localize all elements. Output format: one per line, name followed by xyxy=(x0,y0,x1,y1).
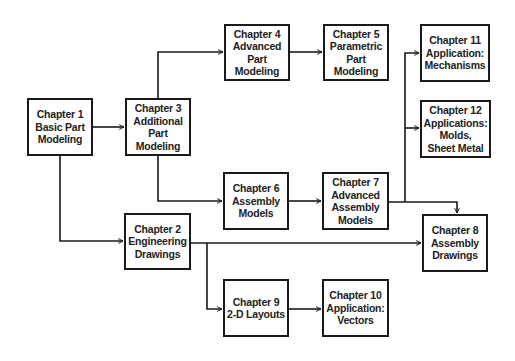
node-label-line: Chapter 7 xyxy=(332,176,379,189)
edge-ch3-ch4 xyxy=(158,52,223,98)
node-label-line: Parametric xyxy=(330,40,382,53)
node-chapter-6: Chapter 6 Assembly Models xyxy=(223,172,289,230)
node-label-line: Modeling xyxy=(235,65,279,78)
node-label-line: Molds, xyxy=(439,129,471,142)
node-chapter-7: Chapter 7 Advanced Assembly Models xyxy=(322,172,389,230)
node-label-line: Mechanisms xyxy=(424,59,485,72)
node-label-line: Drawings xyxy=(135,248,181,261)
node-label-line: Sheet Metal xyxy=(427,142,483,155)
node-chapter-12: Chapter 12 Applications: Molds, Sheet Me… xyxy=(420,100,491,158)
node-label-line: Assembly xyxy=(331,201,379,214)
node-label-line: Assembly xyxy=(431,237,479,250)
node-label-line: Part xyxy=(346,53,366,66)
node-label-line: Models xyxy=(338,214,373,227)
edge-ch7-ch8 xyxy=(389,202,457,213)
node-label-line: Additional xyxy=(133,115,182,128)
node-chapter-9: Chapter 9 2-D Layouts xyxy=(223,279,289,337)
node-label-line: Advanced xyxy=(233,40,282,53)
node-label-line: Modeling xyxy=(38,133,82,146)
node-label-line: Chapter 5 xyxy=(333,28,380,41)
node-label-line: Chapter 2 xyxy=(134,223,181,236)
node-label-line: Chapter 3 xyxy=(135,102,182,115)
node-chapter-2: Chapter 2 Engineering Drawings xyxy=(124,213,191,270)
node-label-line: Chapter 1 xyxy=(37,108,84,121)
node-label-line: Chapter 4 xyxy=(234,28,281,41)
node-chapter-3: Chapter 3 Additional Part Modeling xyxy=(125,98,191,156)
node-chapter-11: Chapter 11 Application: Mechanisms xyxy=(420,24,490,82)
node-label-line: Chapter 12 xyxy=(429,104,481,117)
node-label-line: Applications: xyxy=(424,117,488,130)
node-label-line: Modeling xyxy=(136,140,180,153)
node-chapter-8: Chapter 8 Assembly Drawings xyxy=(422,214,488,272)
node-label-line: Advanced xyxy=(331,189,380,202)
node-label-line: Part xyxy=(148,127,168,140)
node-label-line: Application: xyxy=(426,47,484,60)
node-label-line: Chapter 9 xyxy=(233,296,280,309)
node-label-line: Part xyxy=(247,53,267,66)
node-chapter-1: Chapter 1 Basic Part Modeling xyxy=(27,98,93,156)
node-chapter-10: Chapter 10 Application: Vectors xyxy=(322,279,389,337)
node-label-line: Chapter 10 xyxy=(329,289,381,302)
node-chapter-4: Chapter 4 Advanced Part Modeling xyxy=(224,24,290,81)
node-label-line: Drawings xyxy=(432,249,478,262)
node-label-line: Modeling xyxy=(334,65,378,78)
node-label-line: Chapter 8 xyxy=(432,224,479,237)
edge-ch1-ch2 xyxy=(60,156,123,241)
node-label-line: Basic Part xyxy=(35,121,84,134)
node-chapter-5: Chapter 5 Parametric Part Modeling xyxy=(323,24,389,81)
edge-ch2-ch9 xyxy=(207,243,222,309)
node-label-line: Application: xyxy=(326,302,384,315)
node-label-line: Chapter 11 xyxy=(429,34,481,47)
node-label-line: Vectors xyxy=(337,314,374,327)
edge-ch3-ch6 xyxy=(158,156,222,201)
node-label-line: 2-D Layouts xyxy=(227,308,285,321)
node-label-line: Chapter 6 xyxy=(233,182,280,195)
node-label-line: Engineering xyxy=(128,235,186,248)
chapter-flow-diagram: Chapter 1 Basic Part Modeling Chapter 3 … xyxy=(0,0,515,361)
node-label-line: Models xyxy=(239,207,274,220)
node-label-line: Assembly xyxy=(232,195,280,208)
